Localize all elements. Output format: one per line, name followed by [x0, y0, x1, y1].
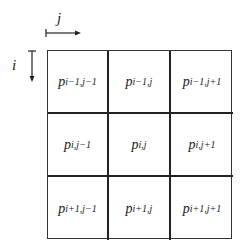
- cell-subscript: i−1,j−1: [65, 76, 97, 87]
- stencil-grid: pi−1,j−1pi−1,jpi−1,j+1pi,j−1pi,jpi,j+1pi…: [47, 50, 232, 239]
- cell-subscript: i+1,j: [133, 203, 153, 214]
- grid-cell: pi−1,j−1: [48, 51, 109, 114]
- cell-subscript: i,j: [138, 139, 146, 150]
- cell-variable: p: [183, 201, 190, 217]
- j-axis-label: j: [57, 10, 61, 27]
- cell-variable: p: [189, 137, 196, 153]
- i-direction-arrow: [27, 50, 37, 83]
- cell-subscript: i+1,j−1: [65, 203, 97, 214]
- cell-subscript: i−1,j: [133, 76, 153, 87]
- grid-cell: pi+1,j−1: [48, 177, 109, 240]
- cell-variable: p: [183, 74, 190, 90]
- cell-variable: p: [126, 74, 133, 90]
- cell-subscript: i,j+1: [196, 139, 216, 150]
- grid-cell: pi,j+1: [171, 114, 233, 177]
- grid-cell: pi−1,j+1: [171, 51, 233, 114]
- j-direction-arrow: [44, 28, 82, 38]
- cell-variable: p: [58, 201, 65, 217]
- grid-cell: pi+1,j+1: [171, 177, 233, 240]
- grid-cell: pi−1,j: [109, 51, 171, 114]
- cell-variable: p: [131, 137, 138, 153]
- grid-cell: pi,j−1: [48, 114, 109, 177]
- cell-subscript: i+1,j+1: [190, 203, 222, 214]
- grid-cell: pi+1,j: [109, 177, 171, 240]
- cell-variable: p: [126, 201, 133, 217]
- i-axis-label: i: [12, 57, 16, 74]
- grid-cell: pi,j: [109, 114, 171, 177]
- cell-subscript: i−1,j+1: [190, 76, 222, 87]
- cell-variable: p: [64, 137, 71, 153]
- cell-subscript: i,j−1: [71, 139, 91, 150]
- cell-variable: p: [58, 74, 65, 90]
